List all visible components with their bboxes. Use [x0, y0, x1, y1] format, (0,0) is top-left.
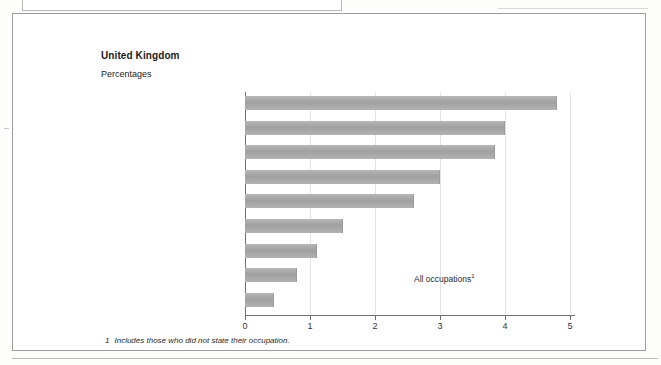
all-occupations-annotation: All occupations1	[414, 273, 475, 284]
bar-row: Personal and protective services	[245, 166, 570, 190]
bar	[245, 145, 495, 159]
gridline-5	[570, 92, 571, 314]
bar-row: Other	[245, 289, 570, 313]
chart-frame: United Kingdom Percentages 012345 Associ…	[12, 13, 646, 351]
chart-title: United Kingdom	[101, 50, 180, 61]
bar	[245, 170, 440, 184]
scan-stray-line-top	[498, 8, 648, 9]
bar	[245, 244, 317, 258]
x-tick-label-3: 3	[430, 321, 450, 331]
scan-stray-mark-left	[4, 128, 9, 129]
x-tick-label-2: 2	[365, 321, 385, 331]
bar	[245, 268, 297, 282]
x-tick-label-1: 1	[300, 321, 320, 331]
x-tick-label-4: 4	[495, 321, 515, 331]
footnote: 1Includes those who did not state their …	[105, 336, 290, 345]
x-axis-line	[245, 315, 575, 316]
bar	[245, 121, 505, 135]
bar-row: Clerical and secretarial	[245, 141, 570, 165]
bar-row: Associate professional and technical	[245, 92, 570, 116]
bar-row: Managers and administrators	[245, 117, 570, 141]
scan-stray-line-bottom	[12, 358, 658, 359]
annotation-footnote-marker: 1	[471, 273, 474, 279]
bar-row: Professional	[245, 190, 570, 214]
x-tick-2	[375, 316, 376, 320]
bar	[245, 219, 343, 233]
x-tick-0	[245, 316, 246, 320]
bar-row: Sales	[245, 240, 570, 264]
bar-row: Plant and machine operatives	[245, 264, 570, 288]
bar	[245, 194, 414, 208]
footnote-number: 1	[105, 336, 109, 345]
x-tick-label-0: 0	[235, 321, 255, 331]
bar	[245, 96, 557, 110]
scanned-page: United Kingdom Percentages 012345 Associ…	[0, 0, 661, 365]
top-partial-box	[22, 0, 342, 11]
x-tick-5	[570, 316, 571, 320]
x-tick-4	[505, 316, 506, 320]
x-tick-1	[310, 316, 311, 320]
footnote-text: Includes those who did not state their o…	[114, 336, 289, 345]
annotation-label: All occupations	[414, 274, 471, 284]
x-tick-3	[440, 316, 441, 320]
bar	[245, 293, 274, 307]
x-tick-label-5: 5	[560, 321, 580, 331]
chart-subtitle: Percentages	[101, 69, 152, 79]
bar-row: Craft and related	[245, 215, 570, 239]
